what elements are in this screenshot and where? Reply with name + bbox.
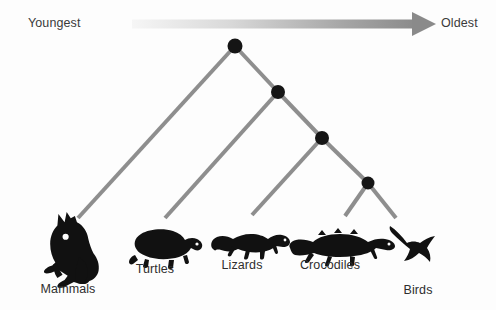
branch-root-to-mammals bbox=[78, 46, 235, 218]
taxon-label-crocodiles: Crocodiles bbox=[300, 258, 360, 272]
node-2 bbox=[271, 85, 285, 99]
lizard-silhouette bbox=[211, 234, 290, 260]
kangaroo-silhouette bbox=[44, 212, 99, 288]
node-3 bbox=[315, 131, 329, 145]
branch-root-to-node2 bbox=[235, 46, 278, 92]
time-arrow-icon bbox=[132, 12, 436, 36]
root-node bbox=[228, 39, 243, 54]
axis-label-youngest: Youngest bbox=[28, 16, 80, 30]
taxon-label-mammals: Mammals bbox=[41, 282, 96, 296]
branch-node2-to-node3 bbox=[278, 92, 322, 138]
taxon-label-turtles: Turtles bbox=[136, 262, 174, 276]
branch-node2-to-turtles bbox=[165, 92, 278, 218]
branch-node3-to-lizards bbox=[252, 138, 322, 215]
branch-node4-to-birds bbox=[368, 183, 396, 218]
bird-silhouette bbox=[390, 226, 435, 262]
tree-branches bbox=[78, 46, 396, 218]
node-4 bbox=[362, 177, 375, 190]
branch-node3-to-node4 bbox=[322, 138, 368, 183]
taxon-label-lizards: Lizards bbox=[222, 258, 263, 272]
taxon-label-birds: Birds bbox=[404, 283, 433, 297]
axis-label-oldest: Oldest bbox=[441, 16, 478, 30]
phylogenetic-tree-figure: Youngest Oldest Mammals Turtles Lizards … bbox=[0, 0, 496, 310]
